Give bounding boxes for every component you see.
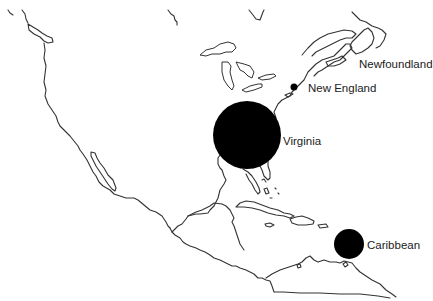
marker-layer [0, 0, 433, 301]
marker-caribbean[interactable] [334, 229, 364, 259]
marker-new-england[interactable] [291, 84, 298, 91]
marker-virginia[interactable] [213, 101, 281, 169]
label-new-england: New England [308, 83, 376, 95]
label-caribbean: Caribbean [367, 240, 420, 252]
label-newfoundland: Newfoundland [359, 59, 433, 71]
label-virginia: Virginia [283, 136, 321, 148]
